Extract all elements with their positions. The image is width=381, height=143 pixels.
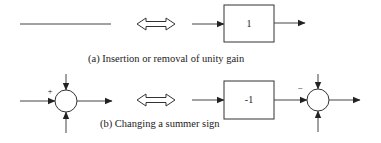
minus-sign-label: − [297,83,302,93]
caption-panel-a: (a) Insertion or removal of unity gain [88,53,244,64]
panel-a: 1 [20,5,305,42]
summer-junction-left [55,90,77,112]
unity-gain-label: 1 [247,18,252,29]
negative-gain-label: -1 [245,94,253,105]
equivalence-double-arrow-icon [137,18,175,30]
summer-junction-right [307,89,329,111]
equivalence-double-arrow-icon [137,94,175,106]
caption-panel-b: (b) Changing a summer sign [100,118,220,129]
plus-sign-label: + [47,86,52,96]
